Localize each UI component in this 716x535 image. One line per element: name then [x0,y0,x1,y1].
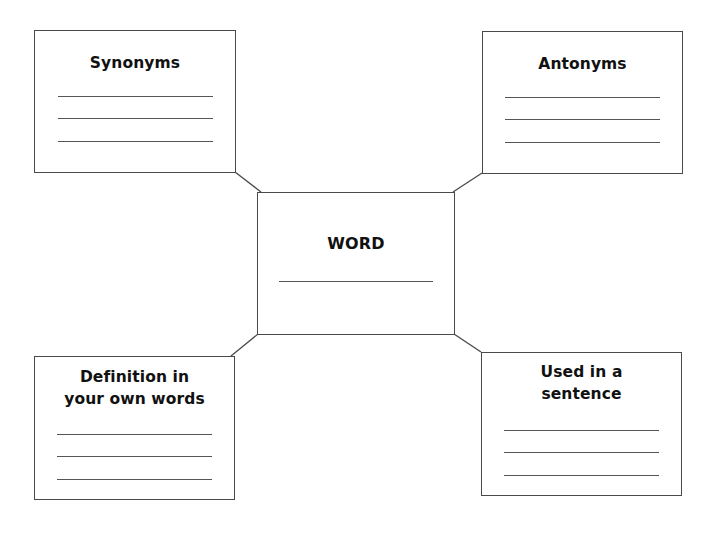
definition-title-line-1: Definition in [35,366,234,388]
synonyms-answer-line-2[interactable] [58,118,213,119]
sentence-title-line-2: sentence [482,383,681,405]
antonyms-box: Antonyms [482,31,683,174]
antonyms-title: Antonyms [483,53,682,75]
antonyms-answer-line-1[interactable] [505,97,660,98]
sentence-answer-line-3[interactable] [504,475,659,476]
sentence-answer-line-2[interactable] [504,452,659,453]
synonyms-box: Synonyms [34,30,236,173]
sentence-answer-line-1[interactable] [504,430,659,431]
synonyms-title: Synonyms [35,52,235,74]
definition-answer-line-2[interactable] [57,456,212,457]
word-answer-line[interactable] [279,281,433,282]
sentence-title-line-1: Used in a [482,361,681,383]
synonyms-answer-line-3[interactable] [58,141,213,142]
definition-box: Definition in your own words [34,356,235,500]
antonyms-title-line: Antonyms [483,53,682,75]
connector-synonyms-word [235,172,261,192]
synonyms-answer-line-1[interactable] [58,96,213,97]
sentence-box: Used in a sentence [481,352,682,496]
definition-answer-line-3[interactable] [57,479,212,480]
definition-answer-line-1[interactable] [57,434,212,435]
antonyms-answer-line-3[interactable] [505,142,660,143]
connector-definition-word [231,334,258,356]
word-box: WORD [257,192,455,335]
synonyms-title-line: Synonyms [35,52,235,74]
connector-antonyms-word [453,173,482,192]
definition-title-line-2: your own words [35,388,234,410]
definition-title: Definition in your own words [35,366,234,410]
word-title-text: WORD [258,233,454,255]
sentence-title: Used in a sentence [482,361,681,405]
antonyms-answer-line-2[interactable] [505,119,660,120]
word-title: WORD [258,233,454,255]
connector-sentence-word [454,334,481,352]
